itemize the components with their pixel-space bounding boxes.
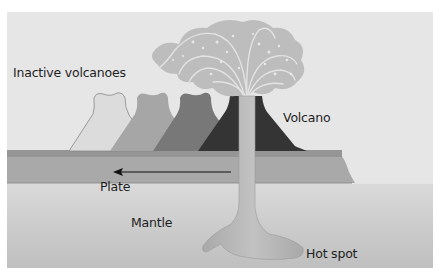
label-inactive-volcanoes: Inactive volcanoes xyxy=(13,65,126,80)
label-mantle: Mantle xyxy=(131,215,172,230)
label-hot-spot: Hot spot xyxy=(306,246,357,261)
label-plate: Plate xyxy=(100,179,130,194)
mantle-layer xyxy=(7,182,433,268)
label-volcano: Volcano xyxy=(283,110,330,125)
hotspot-diagram: Inactive volcanoes Volcano Plate Mantle … xyxy=(7,12,433,268)
diagram-graphic xyxy=(7,12,433,268)
